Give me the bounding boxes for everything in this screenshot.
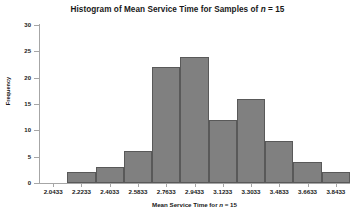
histogram-bar [180,57,208,183]
histogram-chart: Histogram of Mean Service Time for Sampl… [0,0,355,216]
y-axis-label: Frequency [5,61,11,121]
histogram-bar [209,120,237,183]
chart-title-text-after: = 15 [266,5,285,14]
histogram-bar [96,167,124,183]
histogram-bar [322,172,350,183]
x-tick-mark [336,183,337,187]
x-tick-mark [223,183,224,187]
y-tick-label: 10 [0,127,31,133]
y-tick-mark [34,183,39,184]
chart-title-text-before: Histogram of Mean Service Time for Sampl… [71,5,261,14]
x-tick-mark [110,183,111,187]
x-tick-mark [251,183,252,187]
x-tick-mark [81,183,82,187]
histogram-bar [124,151,152,183]
y-tick-label: 30 [0,22,31,28]
y-tick-label: 0 [0,180,31,186]
y-tick-label: 25 [0,48,31,54]
histogram-bar [265,141,293,183]
x-tick-mark [279,183,280,187]
x-axis-label: Mean Service Time for n = 15 [39,201,350,208]
histogram-bar [67,172,95,183]
x-tick-mark [195,183,196,187]
histogram-bar [152,67,180,183]
chart-title: Histogram of Mean Service Time for Sampl… [0,5,355,14]
histogram-bar [237,99,265,183]
x-tick-label: 3.8433 [311,188,355,195]
x-tick-mark [166,183,167,187]
x-axis-label-text-before: Mean Service Time for [152,201,219,208]
y-tick-label: 15 [0,101,31,107]
x-axis-label-text-after: = 15 [223,201,237,208]
histogram-bar [293,162,321,183]
histogram-bars [39,25,350,183]
x-tick-mark [138,183,139,187]
x-tick-mark [53,183,54,187]
x-tick-mark [308,183,309,187]
y-tick-label: 20 [0,75,31,81]
y-tick-label: 5 [0,154,31,160]
